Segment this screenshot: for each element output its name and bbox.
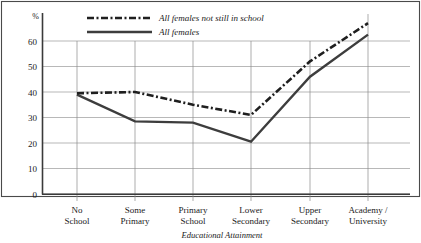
chart-svg: % 60 50 40 30 20 10 0 All females not st… bbox=[0, 0, 421, 243]
x-tick-label-lower-secondary-line2: Secondary bbox=[232, 216, 270, 226]
x-tick-label-some-primary-line1: Some bbox=[125, 205, 146, 215]
legend-label-not-still-in-school: All females not still in school bbox=[158, 13, 264, 23]
y-tick-label-30: 30 bbox=[28, 113, 38, 123]
y-tick-label-40: 40 bbox=[28, 88, 38, 98]
y-tick-label-20: 20 bbox=[28, 139, 38, 149]
y-tick-label-10: 10 bbox=[28, 164, 38, 174]
x-tick-label-upper-secondary-line2: Secondary bbox=[291, 216, 329, 226]
y-axis-unit-label: % bbox=[32, 12, 39, 21]
x-tick-label-academy-university-line2: University bbox=[349, 216, 387, 226]
x-tick-label-academy-university-line1: Academy / bbox=[348, 205, 388, 215]
x-tick-label-primary-school-line1: Primary bbox=[179, 205, 208, 215]
x-tick-label-primary-school-line2: School bbox=[180, 216, 206, 226]
x-tick-label-upper-secondary-line1: Upper bbox=[299, 205, 322, 215]
x-tick-label-no-school-line2: School bbox=[64, 216, 90, 226]
x-tick-label-no-school-line1: No bbox=[72, 205, 83, 215]
y-tick-label-50: 50 bbox=[28, 62, 38, 72]
y-tick-label-0: 0 bbox=[33, 190, 38, 200]
x-axis-title: Educational Attainment bbox=[181, 230, 263, 240]
y-tick-label-60: 60 bbox=[28, 37, 38, 47]
x-tick-label-some-primary-line2: Primary bbox=[121, 216, 150, 226]
legend-label-all-females: All females bbox=[158, 27, 200, 37]
line-chart: % 60 50 40 30 20 10 0 All females not st… bbox=[0, 0, 421, 243]
x-tick-label-lower-secondary-line1: Lower bbox=[239, 205, 263, 215]
